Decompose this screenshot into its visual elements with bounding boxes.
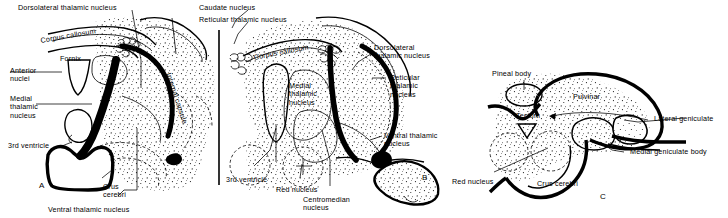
label-pulvinar-c: Pulvinar: [573, 93, 600, 101]
label-pineal-body-c: Pineal body: [492, 70, 531, 78]
panel-letter-c: C: [600, 192, 606, 201]
label-medial-thalamic-nucleus-b: Medial thalamic nucleus: [289, 82, 317, 107]
label-lateral-geniculate-c: Lateral geniculate: [654, 115, 713, 123]
panel-letter-b: B: [422, 173, 427, 182]
third-ventricle-upper-a: [68, 60, 90, 95]
label-crus-cerebri-c: Crus cerebri: [537, 180, 578, 188]
label-fornix-a: Fornix: [60, 55, 81, 63]
label-reticular-thalamic-nucleus-b: Reticular thalamic nucleus: [390, 74, 420, 99]
label-centromedian-nucleus-b: Centromedian nucleus: [303, 196, 350, 213]
leader-reticular-top-b: [234, 22, 248, 44]
label-red-nucleus-c: Red nucleus: [452, 178, 494, 186]
label-dorsolateral-thalamic-nucleus-a: Dorsolateral thalamic nucleus: [18, 4, 117, 12]
label-medial-geniculate-body-c: Medial geniculate body: [630, 148, 707, 156]
label-dorsolateral-thalamic-nucleus-b: Dorsolateral thalamic nucleus: [374, 44, 430, 61]
choroid-plexus-left-b2: [231, 61, 246, 74]
brainstem-mass-b: [374, 161, 438, 204]
label-red-nucleus-b: Red nucleus: [276, 186, 318, 194]
label-medial-thalamic-nucleus-a: Medial thalamic nucleus: [10, 95, 38, 120]
label-tectum-c: Tectum: [516, 112, 540, 120]
leader-third-ventricle-a: [62, 142, 72, 146]
label-third-ventricle-b: 3rd ventricle: [226, 176, 267, 184]
label-ventral-thalamic-nucleus-a: Ventral thalamic nucleus: [48, 206, 130, 214]
label-crus-cerebri-a: Crus cerebri: [103, 183, 126, 200]
label-ventral-thalamic-nucleus-b: Ventral thalamic nucleus: [384, 132, 438, 149]
label-reticular-thalamic-nucleus-top-b: Reticular thalamic nucleus: [199, 16, 287, 24]
thalamic-nuclei-figure: Dorsolateral thalamic nucleus Corpus cal…: [0, 0, 728, 218]
label-anterior-nuclei-a: Anterior nuclei: [10, 67, 36, 84]
label-caudate-nucleus-b: Caudate nucleus: [199, 4, 255, 12]
panel-letter-a: A: [39, 181, 44, 190]
label-third-ventricle-a: 3rd ventricle: [8, 142, 49, 150]
